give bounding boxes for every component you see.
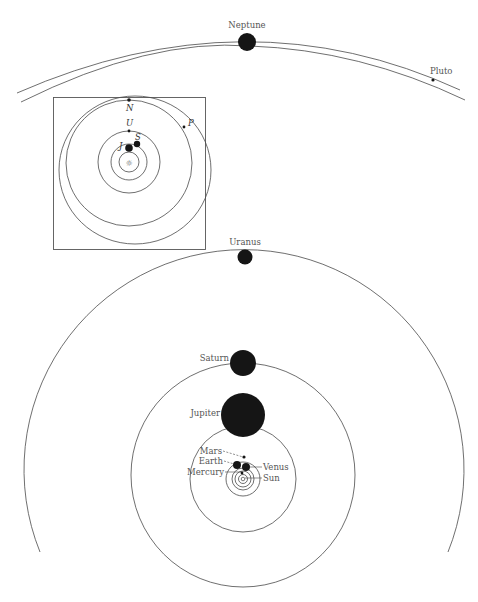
- inset-pluto-label: P: [187, 118, 194, 128]
- pluto-planet: [431, 78, 434, 81]
- inset-jupiter: [125, 144, 133, 152]
- outer-orbits: Neptune Pluto: [17, 20, 465, 102]
- mars-leader: [223, 451, 243, 457]
- sun-body: [241, 477, 245, 481]
- inset-neptune: [127, 98, 131, 102]
- saturn-label: Saturn: [200, 353, 230, 363]
- mercury-label: Mercury: [187, 467, 224, 477]
- sun-label: Sun: [263, 473, 280, 483]
- inset-sun-icon: ☼: [125, 159, 132, 168]
- venus-label: Venus: [262, 462, 289, 472]
- inset-pluto: [183, 126, 186, 129]
- neptune-orbit: [17, 42, 460, 93]
- inset-uranus-label: U: [126, 118, 134, 128]
- main-system: Uranus Saturn Jupiter Mars Earth Mercury…: [24, 237, 464, 587]
- earth-label: Earth: [199, 456, 224, 466]
- earth-leader: [224, 461, 234, 464]
- mercury-planet: [241, 472, 244, 475]
- neptune-planet: [238, 33, 256, 51]
- inset-uranus: [128, 130, 131, 133]
- mercury-orbit: [239, 475, 248, 484]
- inset-saturn-label: S: [135, 132, 141, 142]
- inset-neptune-label: N: [125, 103, 134, 113]
- mars-label: Mars: [200, 446, 222, 456]
- solar-system-diagram: Neptune Pluto N U S J P ☼ Uranus: [0, 0, 478, 602]
- pluto-orbit: [21, 45, 465, 102]
- earth-planet: [233, 461, 241, 469]
- mars-planet: [242, 455, 245, 458]
- saturn-planet: [230, 350, 256, 376]
- jupiter-orbit: [190, 426, 296, 532]
- inset-jupiter-label: J: [117, 141, 123, 151]
- neptune-label: Neptune: [228, 20, 265, 30]
- jupiter-label: Jupiter: [189, 408, 220, 418]
- inset-overview: N U S J P ☼: [54, 96, 212, 250]
- jupiter-planet: [221, 393, 265, 437]
- venus-planet: [242, 463, 250, 471]
- uranus-label: Uranus: [229, 237, 261, 247]
- pluto-label: Pluto: [430, 66, 452, 76]
- uranus-planet: [238, 250, 253, 265]
